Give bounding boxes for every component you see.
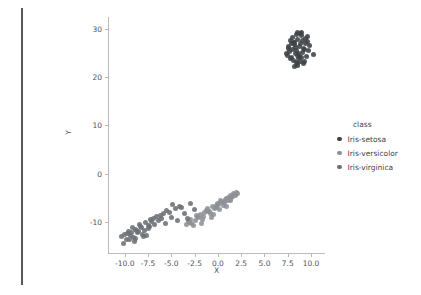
data-point xyxy=(147,224,152,229)
legend-item-label: Iris-setosa xyxy=(348,135,387,144)
data-point xyxy=(291,40,296,45)
legend-marker-icon xyxy=(337,165,342,170)
y-tick-mark xyxy=(105,125,108,126)
scatter-plot-figure: 3020100-10 -10.0-7.5-5.0-2.50.02.55.07.5… xyxy=(0,0,421,295)
data-point xyxy=(144,233,149,238)
data-point xyxy=(191,223,196,228)
legend-item-iris-virginica[interactable]: Iris-virginica xyxy=(333,162,417,172)
x-tick-mark xyxy=(148,254,149,257)
data-point xyxy=(305,34,310,39)
data-point xyxy=(213,205,218,210)
legend-item-label: Iris-virginica xyxy=(348,163,394,172)
y-tick-label: 30 xyxy=(92,25,102,34)
data-point xyxy=(194,213,199,218)
x-axis-label: X xyxy=(108,266,325,275)
data-point xyxy=(127,237,132,242)
data-point xyxy=(129,230,134,235)
data-point xyxy=(164,208,169,213)
y-tick-label: 0 xyxy=(97,169,102,178)
y-axis-spine xyxy=(108,17,109,253)
data-point xyxy=(292,64,297,69)
y-axis-label: Y xyxy=(64,130,73,135)
y-tick-label: 20 xyxy=(92,73,102,82)
data-point xyxy=(121,241,126,246)
data-point xyxy=(169,215,174,220)
data-point xyxy=(235,191,240,196)
legend-marker-icon xyxy=(337,151,342,156)
data-point xyxy=(175,218,180,223)
y-tick-mark xyxy=(105,222,108,223)
x-tick-mark xyxy=(264,254,265,257)
data-point xyxy=(206,209,211,214)
data-point xyxy=(288,56,293,61)
data-point xyxy=(179,205,184,210)
y-tick-label: 10 xyxy=(92,121,102,130)
data-point xyxy=(284,51,289,56)
legend-item-label: Iris-versicolor xyxy=(348,149,398,158)
data-point xyxy=(304,54,309,59)
data-point xyxy=(293,45,298,50)
legend-item-iris-versicolor[interactable]: Iris-versicolor xyxy=(333,148,417,158)
y-tick-label: -10 xyxy=(90,217,102,226)
y-tick-mark xyxy=(105,174,108,175)
data-point xyxy=(185,216,190,221)
x-tick-mark xyxy=(311,254,312,257)
data-point xyxy=(224,204,229,209)
data-point xyxy=(311,52,316,57)
data-point xyxy=(300,38,305,43)
data-point xyxy=(159,216,164,221)
data-point xyxy=(192,207,197,212)
data-point xyxy=(132,239,137,244)
data-point xyxy=(152,222,157,227)
data-point xyxy=(209,215,214,220)
data-point xyxy=(188,201,193,206)
legend-title: class xyxy=(353,120,417,129)
legend-item-iris-setosa[interactable]: Iris-setosa xyxy=(333,134,417,144)
data-point xyxy=(122,232,127,237)
window-panel-edge xyxy=(21,8,23,285)
x-tick-mark xyxy=(171,254,172,257)
plot-axes: 3020100-10 -10.0-7.5-5.0-2.50.02.55.07.5… xyxy=(108,17,325,253)
legend-marker-icon xyxy=(337,137,342,142)
data-point xyxy=(217,207,222,212)
x-tick-mark xyxy=(241,254,242,257)
legend: class Iris-setosaIris-versicolorIris-vir… xyxy=(333,120,417,176)
x-tick-mark xyxy=(288,254,289,257)
x-tick-mark xyxy=(125,254,126,257)
x-tick-mark xyxy=(218,254,219,257)
y-tick-mark xyxy=(105,29,108,30)
data-point xyxy=(227,197,232,202)
x-tick-mark xyxy=(195,254,196,257)
legend-entries: Iris-setosaIris-versicolorIris-virginica xyxy=(333,134,417,172)
data-point xyxy=(163,221,168,226)
y-tick-mark xyxy=(105,77,108,78)
x-axis-spine xyxy=(108,253,325,254)
data-point xyxy=(302,47,307,52)
data-point xyxy=(139,225,144,230)
data-point xyxy=(199,221,204,226)
